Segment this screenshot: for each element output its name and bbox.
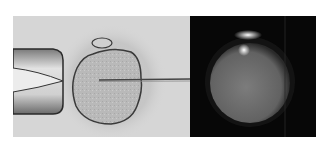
fluorescent-spot-top [234, 30, 262, 40]
fluorescent-spot-center [238, 44, 250, 56]
brightfield-panel [13, 16, 190, 137]
fluorescence-micrograph [190, 16, 316, 137]
fluorescence-panel [190, 16, 316, 137]
oocyte [73, 49, 142, 124]
polar-body [92, 38, 112, 48]
micropipette-edge [99, 81, 190, 82]
injection-micropipette [99, 79, 190, 80]
fluorescent-oocyte [210, 43, 290, 123]
brightfield-micrograph [13, 16, 190, 137]
